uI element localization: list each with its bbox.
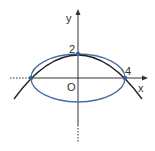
point-left-intersection (29, 76, 33, 80)
origin-label: O (67, 81, 76, 93)
coordinate-diagram: y x O 2 4 (0, 0, 155, 151)
x-axis-label: x (138, 82, 144, 94)
y-axis-label: y (66, 12, 72, 24)
y-axis-arrow-icon (76, 9, 81, 15)
point-top (76, 52, 80, 56)
y-intercept-label: 2 (69, 43, 75, 55)
x-axis-arrow-icon (142, 76, 148, 81)
x-intercept-label: 4 (125, 65, 131, 77)
